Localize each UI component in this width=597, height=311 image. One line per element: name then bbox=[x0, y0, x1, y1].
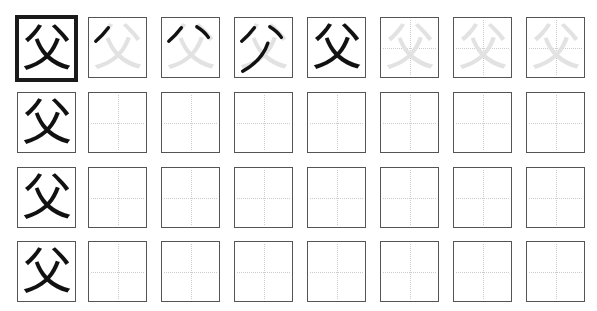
guide-line-vertical bbox=[337, 244, 338, 299]
blank-cell[interactable] bbox=[380, 167, 439, 228]
reference-cell: 父 bbox=[17, 92, 76, 153]
blank-cell[interactable] bbox=[526, 167, 585, 228]
trace-character: 父 bbox=[454, 18, 511, 77]
blank-cell[interactable] bbox=[453, 167, 512, 228]
guide-line-vertical bbox=[483, 95, 484, 150]
stroke-step-4-cell: 父 bbox=[307, 17, 366, 78]
blank-cell[interactable] bbox=[307, 167, 366, 228]
trace-cell: 父 bbox=[380, 17, 439, 78]
reference-cell: 父 bbox=[17, 241, 76, 302]
stroke-3-highlight bbox=[235, 18, 292, 77]
guide-line-vertical bbox=[410, 95, 411, 150]
trace-cell: 父 bbox=[453, 17, 512, 78]
guide-line-vertical bbox=[483, 170, 484, 225]
blank-cell[interactable] bbox=[161, 241, 220, 302]
stroke-3-icon bbox=[235, 17, 292, 78]
guide-line-vertical bbox=[264, 95, 265, 150]
model-cell: 父 bbox=[15, 15, 78, 82]
blank-cell[interactable] bbox=[380, 241, 439, 302]
blank-cell[interactable] bbox=[161, 167, 220, 228]
blank-cell[interactable] bbox=[234, 241, 293, 302]
blank-cell[interactable] bbox=[453, 241, 512, 302]
guide-line-vertical bbox=[410, 244, 411, 299]
blank-cell[interactable] bbox=[526, 92, 585, 153]
reference-cell: 父 bbox=[17, 167, 76, 228]
guide-line-vertical bbox=[264, 170, 265, 225]
stroke-step-1-cell: 父 bbox=[88, 17, 147, 78]
model-character: 父 bbox=[19, 19, 74, 78]
guide-line-vertical bbox=[556, 244, 557, 299]
stroke-2-icon bbox=[162, 17, 219, 78]
guide-line-vertical bbox=[556, 170, 557, 225]
guide-line-vertical bbox=[191, 95, 192, 150]
guide-line-vertical bbox=[191, 244, 192, 299]
trace-cell: 父 bbox=[526, 17, 585, 78]
guide-line-vertical bbox=[191, 170, 192, 225]
guide-line-vertical bbox=[337, 170, 338, 225]
stroke-step-3-cell: 父 bbox=[234, 17, 293, 78]
blank-cell[interactable] bbox=[88, 241, 147, 302]
stroke-1-icon bbox=[89, 17, 146, 78]
stroke-1-highlight bbox=[89, 18, 146, 77]
guide-line-vertical bbox=[264, 244, 265, 299]
complete-character: 父 bbox=[308, 18, 365, 77]
guide-line-vertical bbox=[118, 95, 119, 150]
blank-cell[interactable] bbox=[234, 167, 293, 228]
blank-cell[interactable] bbox=[526, 241, 585, 302]
blank-cell[interactable] bbox=[380, 92, 439, 153]
trace-character: 父 bbox=[527, 18, 584, 77]
blank-cell[interactable] bbox=[161, 92, 220, 153]
guide-line-vertical bbox=[410, 170, 411, 225]
trace-character: 父 bbox=[381, 18, 438, 77]
reference-character: 父 bbox=[18, 242, 75, 301]
guide-line-vertical bbox=[118, 170, 119, 225]
blank-cell[interactable] bbox=[307, 241, 366, 302]
blank-cell[interactable] bbox=[234, 92, 293, 153]
blank-cell[interactable] bbox=[88, 167, 147, 228]
reference-character: 父 bbox=[18, 93, 75, 152]
blank-cell[interactable] bbox=[88, 92, 147, 153]
blank-cell[interactable] bbox=[307, 92, 366, 153]
reference-character: 父 bbox=[18, 168, 75, 227]
guide-line-vertical bbox=[118, 244, 119, 299]
stroke-2-highlight bbox=[162, 18, 219, 77]
guide-line-vertical bbox=[556, 95, 557, 150]
stroke-step-2-cell: 父 bbox=[161, 17, 220, 78]
guide-line-vertical bbox=[337, 95, 338, 150]
guide-line-vertical bbox=[483, 244, 484, 299]
blank-cell[interactable] bbox=[453, 92, 512, 153]
